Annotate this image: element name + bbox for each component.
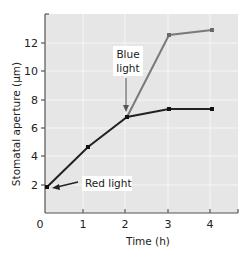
stomatal-aperture-chart: 12 10 8 6 4 2 0 1 2 3 4 Time (h) Stomata… — [0, 0, 250, 253]
x-tick-label: 4 — [207, 218, 214, 231]
x-tick-label: 1 — [80, 218, 87, 231]
y-tick-label: 12 — [24, 37, 38, 50]
y-tick-label: 4 — [31, 150, 38, 163]
annotation-red-text: Red light — [85, 177, 132, 189]
y-tick-label: 2 — [31, 179, 38, 192]
y-tick-label: 10 — [24, 65, 38, 78]
y-tick-label: 8 — [31, 94, 38, 107]
annotation-blue-line2: light — [116, 62, 139, 74]
x-tick-label: 3 — [165, 218, 172, 231]
y-axis-title: Stomatal aperture (µm) — [10, 62, 22, 186]
y-tick-label: 6 — [31, 122, 38, 135]
annotation-blue-line1: Blue — [116, 48, 139, 60]
x-axis-title: Time (h) — [125, 235, 170, 247]
x-tick-label: 0 — [37, 218, 44, 231]
x-tick-label: 2 — [122, 218, 129, 231]
